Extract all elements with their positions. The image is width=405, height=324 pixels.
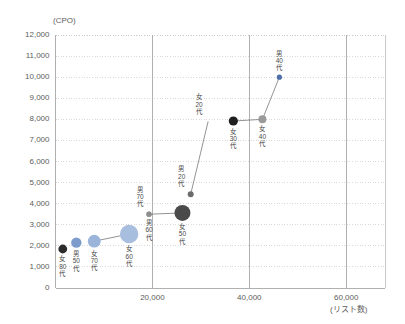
x-axis-title: (リスト数): [330, 303, 367, 314]
data-points: [58, 75, 282, 254]
y-tick-label: 10,000: [10, 72, 50, 81]
point-label: 女30代: [228, 128, 238, 150]
y-tick-label: 6,000: [10, 157, 50, 166]
x-tick-label: 20,000: [127, 293, 177, 302]
point-label: 女50代: [177, 223, 187, 245]
data-point: [258, 115, 266, 123]
cpo-scatter-chart: (CPO) (リスト数) 01,0002,0003,0004,0005,0006…: [0, 0, 405, 324]
y-axis-title: (CPO): [53, 16, 76, 25]
y-tick-label: 5,000: [10, 178, 50, 187]
data-point: [188, 191, 194, 197]
horizontal-gridlines: [56, 35, 386, 267]
y-tick-label: 1,000: [10, 262, 50, 271]
data-point: [58, 245, 67, 254]
data-point: [71, 237, 81, 247]
data-point: [120, 225, 138, 243]
point-label: 男70代: [135, 186, 145, 208]
y-tick-label: 11,000: [10, 51, 50, 60]
point-label: 男20代: [177, 165, 187, 187]
data-point: [146, 212, 151, 217]
data-point: [277, 75, 282, 80]
point-label: 男60代: [144, 219, 154, 241]
y-tick-label: 12,000: [10, 30, 50, 39]
y-tick-label: 3,000: [10, 220, 50, 229]
point-label: 女20代: [194, 93, 204, 115]
point-label: 女60代: [124, 245, 134, 267]
y-tick-label: 9,000: [10, 93, 50, 102]
x-tick-label: 60,000: [321, 293, 371, 302]
point-label: 男40代: [274, 50, 284, 72]
point-label: 女70代: [89, 250, 99, 272]
data-point: [88, 235, 101, 248]
vertical-gridlines: [152, 35, 346, 288]
x-tick-label: 40,000: [224, 293, 274, 302]
y-tick-label: 8,000: [10, 114, 50, 123]
point-label: 女80代: [58, 255, 68, 277]
data-point: [229, 116, 238, 125]
point-label: 女40代: [257, 125, 267, 147]
y-tick-label: 4,000: [10, 199, 50, 208]
point-label: 男50代: [71, 250, 81, 272]
data-point: [174, 205, 190, 221]
y-tick-label: 7,000: [10, 135, 50, 144]
y-tick-label: 0: [10, 283, 50, 292]
y-tick-label: 2,000: [10, 241, 50, 250]
